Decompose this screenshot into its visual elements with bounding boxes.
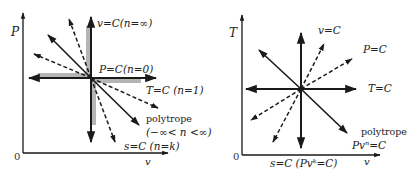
polytrope-range-label: (−∞< n <∞) [146,126,212,138]
isentropic-label-right: s=C (Pvᵏ=C) [270,157,337,169]
v-axis-label: v [145,156,151,167]
isobaric-label: P=C(n=0) [98,63,153,75]
process-diagrams: P v 0 v=C(n=∞) P=C(n=0) T=C (n=1) polytr… [0,0,409,177]
polytrope-line-down [91,78,139,125]
polytrope-line-down-right [301,89,347,133]
polytrope-line-up-right [259,50,301,89]
isothermal-label-right: T=C [368,82,392,94]
t-axis-label: T [229,26,238,40]
polytrope-eq-label: Pvⁿ=C [351,139,386,151]
polytrope-label: polytrope [146,113,192,124]
isochoric-label: v=C(n=∞) [97,17,152,29]
isentropic-label: s=C (n=k) [124,140,180,152]
pv-diagram: P v 0 v=C(n=∞) P=C(n=0) T=C (n=1) polytr… [10,13,212,167]
polytrope-line-up [48,35,91,78]
polytrope-label-right: polytrope [361,126,407,137]
origin-label: 0 [14,151,20,162]
isobaric-label-right: P=C [362,43,387,55]
tv-diagram: T v 0 v=C P=C T=C polytrope Pvⁿ=C s=C (P… [229,15,407,169]
isobaric-dashed-down [251,89,301,120]
origin-label-right: 0 [233,151,239,162]
v-axis-label-right: v [364,156,370,167]
isochoric-label-right: v=C [318,24,341,36]
p-axis-label: P [10,25,20,39]
isothermal-label: T=C (n=1) [146,84,204,96]
